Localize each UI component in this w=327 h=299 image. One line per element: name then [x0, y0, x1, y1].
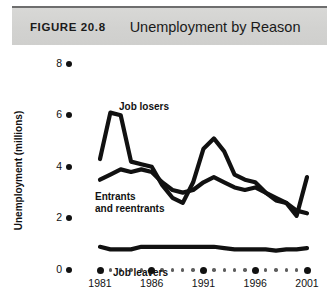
series-label-job-leavers: Job leavers [113, 267, 168, 279]
series-label-job-losers: Job losers [119, 101, 169, 113]
plot-area: Unemployment (millions) 02468 1981198619… [0, 45, 327, 299]
figure-title: Unemployment by Reason [130, 19, 301, 35]
chart-lines [0, 45, 327, 299]
header-content: FIGURE 20.8 Unemployment by Reason [12, 8, 327, 45]
series-line-job-leavers [100, 247, 307, 251]
series-label-entrants-line1: Entrants [95, 191, 136, 203]
series-label-entrants-line2: and reentrants [95, 203, 164, 215]
figure-container: FIGURE 20.8 Unemployment by Reason Unemp… [0, 0, 327, 299]
figure-number: FIGURE 20.8 [30, 21, 106, 33]
